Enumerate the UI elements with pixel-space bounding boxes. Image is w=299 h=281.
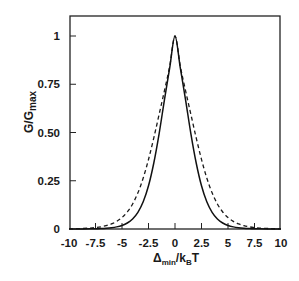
solid-curve [69, 36, 281, 229]
x-tick-label: 7.5 [247, 237, 264, 249]
y-tick-label: 0.50 [38, 127, 60, 139]
y-tick-label: 0.75 [38, 78, 61, 90]
x-tick-label: -2.5 [139, 237, 159, 249]
x-tick-label: -10 [61, 237, 78, 249]
y-tick-label: 0.25 [38, 175, 61, 187]
chart: 00.250.500.751 -10-7.5-5-2.502.557.510 G… [0, 0, 299, 281]
x-tick-label: 2.5 [194, 237, 211, 249]
x-tick-label: -5 [117, 237, 128, 249]
plot-frame [70, 16, 280, 229]
x-tick-label: 0 [172, 237, 178, 249]
y-tick-label: 1 [54, 30, 61, 42]
x-tick-label: 10 [275, 237, 288, 249]
dashed-curve [69, 36, 281, 229]
x-tick-label: -7.5 [86, 237, 106, 249]
y-axis-label: G/Gmax [22, 91, 38, 133]
x-axis-label: Δmin/kBT [153, 251, 200, 267]
x-tick-label: 5 [225, 237, 232, 249]
y-tick-label: 0 [54, 223, 60, 235]
